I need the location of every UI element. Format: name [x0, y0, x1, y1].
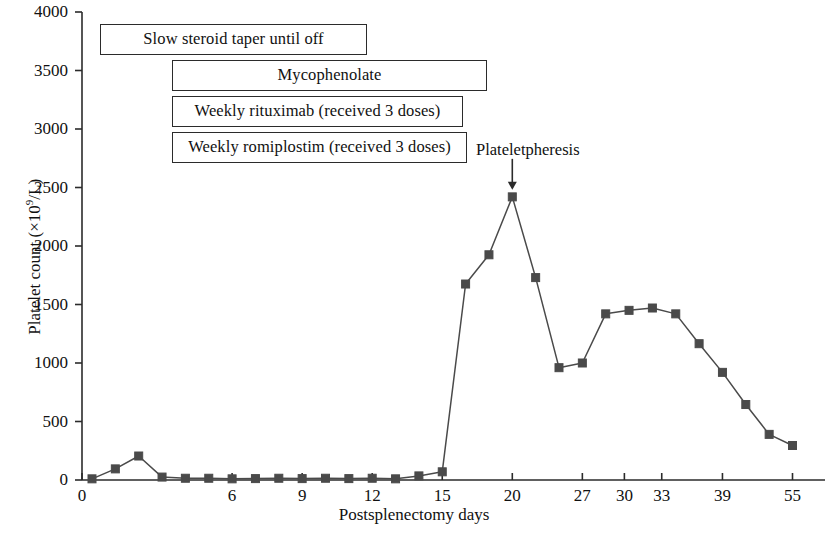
y-axis-title: Platelet count (×109/L) — [23, 127, 45, 387]
treatment-box-romiplostim: Weekly romiplostim (received 3 doses) — [172, 132, 467, 163]
x-axis-tick-label: 6 — [212, 486, 252, 506]
data-point-marker — [111, 465, 119, 473]
x-axis-tick-label: 20 — [492, 486, 532, 506]
data-point-marker — [602, 310, 610, 318]
data-point-marker — [345, 475, 353, 483]
data-point-marker — [718, 368, 726, 376]
x-axis-tick-label: 30 — [604, 486, 644, 506]
data-point-marker — [135, 452, 143, 460]
data-point-marker — [672, 310, 680, 318]
treatment-box-label: Weekly romiplostim (received 3 doses) — [188, 139, 451, 156]
x-axis-tick-label: 55 — [773, 486, 813, 506]
data-point-marker — [228, 475, 236, 483]
y-axis-title-tail: /L) — [25, 179, 44, 200]
x-axis-title: Postsplenectomy days — [0, 505, 828, 525]
data-point-marker — [555, 364, 563, 372]
data-point-marker — [485, 251, 493, 259]
platelet-count-chart: 05001000150020002500300035004000 0691215… — [0, 0, 828, 533]
data-point-marker — [368, 474, 376, 482]
chart-series — [88, 193, 797, 483]
data-point-marker — [648, 304, 656, 312]
treatment-box-label: Slow steroid taper until off — [143, 31, 323, 48]
data-point-marker — [392, 475, 400, 483]
treatment-box-mycophenolate: Mycophenolate — [172, 60, 487, 91]
y-axis-tick-label: 500 — [12, 412, 68, 432]
x-axis-tick-label: 0 — [62, 486, 102, 506]
data-point-marker — [532, 274, 540, 282]
data-point-marker — [625, 306, 633, 314]
treatment-box-label: Mycophenolate — [278, 67, 382, 84]
x-axis-tick-label: 12 — [352, 486, 392, 506]
treatment-box-label: Weekly rituximab (received 3 doses) — [195, 103, 441, 120]
y-axis-title-main: Platelet count (×10 — [25, 205, 44, 335]
data-point-marker — [415, 472, 423, 480]
plateletpheresis-arrow — [508, 159, 517, 190]
y-axis-title-exponent: 9 — [23, 200, 35, 206]
treatment-box-rituximab: Weekly rituximab (received 3 doses) — [172, 96, 463, 127]
x-axis-tick-label: 39 — [702, 486, 742, 506]
data-point-marker — [765, 430, 773, 438]
y-axis-tick-label: 4000 — [12, 2, 68, 22]
x-axis-tick-label: 33 — [642, 486, 682, 506]
data-point-marker — [462, 280, 470, 288]
x-axis-tick-label: 15 — [422, 486, 462, 506]
data-point-marker — [695, 340, 703, 348]
data-point-marker — [181, 474, 189, 482]
data-point-marker — [322, 474, 330, 482]
data-point-marker — [88, 475, 96, 483]
data-point-marker — [438, 468, 446, 476]
data-point-marker — [508, 193, 516, 201]
data-point-marker — [158, 473, 166, 481]
data-point-marker — [578, 359, 586, 367]
x-axis-tick-label: 9 — [282, 486, 322, 506]
data-point-marker — [205, 474, 213, 482]
x-axis-tick-label: 27 — [562, 486, 602, 506]
y-axis-tick-label: 0 — [12, 470, 68, 490]
data-point-marker — [275, 474, 283, 482]
data-point-marker — [742, 401, 750, 409]
plateletpheresis-label: Plateletpheresis — [476, 140, 580, 160]
data-point-marker — [298, 475, 306, 483]
treatment-box-steroid-taper: Slow steroid taper until off — [100, 24, 367, 55]
data-point-marker — [251, 475, 259, 483]
y-axis-tick-label: 3500 — [12, 61, 68, 81]
data-point-marker — [789, 441, 797, 449]
